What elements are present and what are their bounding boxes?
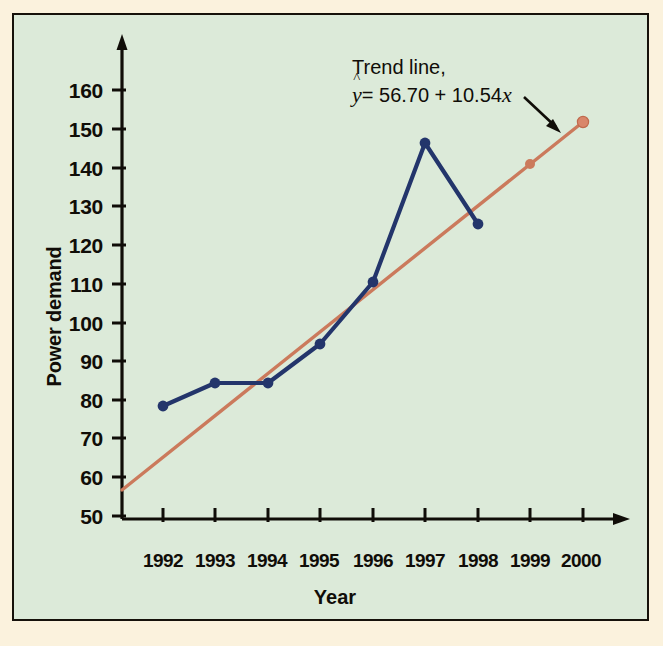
annotation-line-1: Trend line, [352, 56, 446, 78]
y-tick-label: 60 [49, 467, 103, 488]
chart-frame [12, 13, 649, 621]
y-axis-label: Power demand [43, 222, 66, 412]
y-tick-label: 150 [49, 119, 103, 140]
x-variable: x [502, 82, 512, 107]
x-tick-label: 1997 [396, 551, 454, 570]
y-tick-label: 130 [49, 196, 103, 217]
x-tick-label: 1995 [290, 551, 348, 570]
x-tick-label: 1994 [238, 551, 296, 570]
x-axis-label: Year [245, 586, 425, 609]
x-tick-label: 1993 [186, 551, 244, 570]
x-tick-label: 1998 [449, 551, 507, 570]
x-tick-label: 1992 [134, 551, 192, 570]
y-tick-label: 70 [49, 428, 103, 449]
x-tick-label: 1999 [501, 551, 559, 570]
equation-body: = 56.70 + 10.54 [362, 84, 502, 106]
y-tick-label: 50 [49, 506, 103, 527]
x-tick-label: 1996 [344, 551, 402, 570]
figure-canvas: 160 150 140 130 120 110 100 90 80 70 60 … [0, 0, 663, 646]
trend-line-annotation: Trend line, ^y= 56.70 + 10.54x [352, 54, 512, 109]
x-tick-label: 2000 [552, 551, 610, 570]
y-hat-symbol: ^y [352, 80, 362, 109]
y-tick-label: 140 [49, 158, 103, 179]
annotation-equation: ^y= 56.70 + 10.54x [352, 80, 512, 109]
caret-accent-icon: ^ [352, 71, 362, 86]
y-tick-label: 160 [49, 80, 103, 101]
